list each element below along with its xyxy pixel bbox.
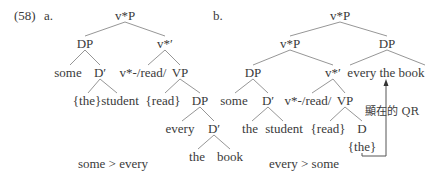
tree-b-read-braced: {read} xyxy=(311,122,346,135)
tree-a-dbar2: D′ xyxy=(208,122,220,135)
tree-a-vbar: v*′ xyxy=(157,37,173,50)
tree-a-the-braced: {the} xyxy=(73,94,101,107)
tree-b-vstarp: v*P xyxy=(280,37,300,50)
tree-a-student: student xyxy=(101,94,139,107)
tree-a-some: some xyxy=(54,66,81,79)
tree-b-qr-label: 顯在的 QR xyxy=(365,106,419,117)
tree-a-dp2: DP xyxy=(192,94,209,107)
tree-a-root: v*P xyxy=(115,9,135,22)
tree-b-vbar: v*′ xyxy=(325,66,341,79)
tree-b-scope: every > some xyxy=(269,157,339,170)
tree-b-the-braced: {the} xyxy=(348,140,376,153)
panel-a-label: a. xyxy=(44,9,53,22)
panel-b-label: b. xyxy=(213,9,223,22)
tree-b-dbar: D′ xyxy=(262,94,274,107)
tree-a-v-read: v*-/read/ xyxy=(120,66,167,79)
tree-b-student: student xyxy=(265,122,303,135)
tree-b-vp: VP xyxy=(337,94,354,107)
tree-b-v-read: v*-/read/ xyxy=(285,94,332,107)
syntax-tree-figure: (58) a. b. v*P DP v*′ some D′ v*-/read/ … xyxy=(0,0,437,179)
tree-a-scope: some > every xyxy=(78,157,148,170)
tree-a-vp: VP xyxy=(172,66,189,79)
arrowhead-icon xyxy=(384,79,389,86)
tree-b-every-the-book: every the book xyxy=(347,66,424,79)
tree-b-d: D xyxy=(357,122,366,135)
tree-b-some: some xyxy=(220,94,247,107)
tree-a-dbar: D′ xyxy=(94,66,106,79)
example-number: (58) xyxy=(14,9,36,22)
tree-a-every: every xyxy=(166,122,195,135)
tree-a-dp: DP xyxy=(77,37,94,50)
tree-a-the: the xyxy=(189,150,205,163)
tree-b-dp-top: DP xyxy=(379,37,396,50)
tree-b-the: the xyxy=(242,122,258,135)
tree-b-dp: DP xyxy=(245,66,262,79)
tree-b-root: v*P xyxy=(330,9,350,22)
tree-a-book: book xyxy=(217,150,243,163)
tree-a-read-braced: {read} xyxy=(146,94,181,107)
